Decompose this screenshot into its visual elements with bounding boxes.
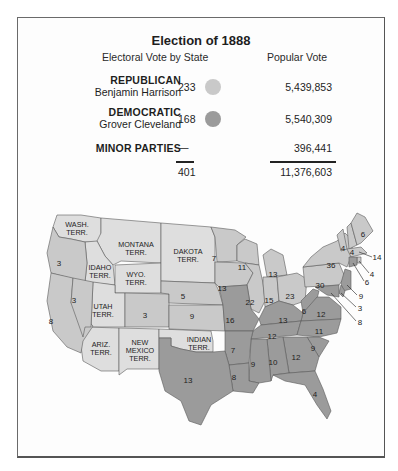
svg-text:3: 3 bbox=[57, 259, 62, 268]
svg-text:8: 8 bbox=[49, 317, 54, 326]
svg-text:23: 23 bbox=[286, 292, 295, 301]
svg-text:14: 14 bbox=[373, 253, 382, 262]
democratic-swatch bbox=[205, 111, 221, 127]
svg-text:TERR.: TERR. bbox=[129, 354, 151, 363]
svg-text:3: 3 bbox=[358, 304, 363, 313]
state-connecticut bbox=[349, 257, 357, 267]
candidate-name: Benjamin Harrison bbox=[95, 86, 181, 98]
party-name: MINOR PARTIES bbox=[96, 142, 181, 154]
svg-text:15: 15 bbox=[265, 296, 274, 305]
electoral-header: Electoral Vote by State bbox=[102, 51, 208, 63]
svg-text:4: 4 bbox=[341, 244, 346, 253]
svg-text:TERR.: TERR. bbox=[177, 255, 199, 264]
svg-text:TERR.: TERR. bbox=[92, 310, 114, 319]
party-name: REPUBLICAN bbox=[110, 74, 181, 86]
svg-text:8: 8 bbox=[358, 318, 363, 327]
svg-text:9: 9 bbox=[311, 344, 316, 353]
svg-text:9: 9 bbox=[190, 312, 195, 321]
republican-swatch bbox=[205, 79, 221, 95]
svg-text:22: 22 bbox=[246, 298, 255, 307]
legend-row-republican: REPUBLICAN Benjamin Harrison 233 5,439,8… bbox=[18, 74, 384, 104]
svg-text:13: 13 bbox=[269, 270, 278, 279]
popular-vote: 5,540,309 bbox=[252, 113, 332, 125]
svg-text:30: 30 bbox=[316, 281, 325, 290]
legend-row-democratic: DEMOCRATIC Grover Cleveland 168 5,540,30… bbox=[18, 106, 384, 136]
svg-text:8: 8 bbox=[232, 373, 237, 382]
svg-text:TERR.: TERR. bbox=[125, 248, 147, 257]
svg-text:7: 7 bbox=[212, 254, 217, 263]
svg-text:6: 6 bbox=[365, 278, 370, 287]
svg-text:TERR.: TERR. bbox=[188, 343, 210, 352]
svg-text:TERR.: TERR. bbox=[125, 278, 147, 287]
legend-row-minor: MINOR PARTIES — 396,441 bbox=[18, 142, 384, 158]
candidate-name: Grover Cleveland bbox=[99, 118, 181, 130]
popular-total-rule bbox=[270, 161, 336, 163]
svg-text:11: 11 bbox=[238, 263, 247, 272]
electoral-vote: 233 bbox=[178, 81, 196, 93]
svg-text:9: 9 bbox=[251, 360, 256, 369]
svg-text:12: 12 bbox=[292, 353, 301, 362]
popular-header: Popular Vote bbox=[267, 51, 327, 63]
svg-text:13: 13 bbox=[218, 284, 227, 293]
svg-text:4: 4 bbox=[313, 390, 318, 399]
page-title: Election of 1888 bbox=[18, 33, 384, 48]
svg-text:11: 11 bbox=[315, 327, 324, 336]
svg-text:36: 36 bbox=[327, 261, 336, 270]
svg-text:16: 16 bbox=[226, 316, 235, 325]
svg-text:TERR.: TERR. bbox=[90, 348, 112, 357]
us-electoral-map: WASH. TERR. MONTANA TERR. DAKOTA TERR. I… bbox=[18, 194, 384, 456]
svg-text:9: 9 bbox=[359, 292, 364, 301]
popular-vote: 396,441 bbox=[252, 142, 332, 154]
party-name: DEMOCRATIC bbox=[109, 106, 181, 118]
svg-text:3: 3 bbox=[72, 296, 77, 305]
state-florida bbox=[273, 371, 331, 419]
svg-text:4: 4 bbox=[370, 270, 375, 279]
svg-text:12: 12 bbox=[317, 310, 326, 319]
svg-text:6: 6 bbox=[361, 230, 366, 239]
svg-text:TERR.: TERR. bbox=[89, 271, 111, 280]
state-wisconsin bbox=[237, 239, 259, 265]
svg-text:3: 3 bbox=[143, 311, 148, 320]
election-map-card: Election of 1888 Electoral Vote by State… bbox=[17, 17, 385, 458]
state-rhode-island bbox=[357, 257, 361, 263]
state-colorado bbox=[125, 293, 169, 327]
svg-text:TERR.: TERR. bbox=[66, 228, 88, 237]
state-arkansas bbox=[225, 331, 253, 365]
svg-text:12: 12 bbox=[268, 332, 277, 341]
svg-text:10: 10 bbox=[269, 358, 278, 367]
svg-text:13: 13 bbox=[279, 316, 288, 325]
svg-text:7: 7 bbox=[231, 346, 236, 355]
svg-text:4: 4 bbox=[350, 248, 355, 257]
svg-text:6: 6 bbox=[302, 307, 307, 316]
state-nebraska bbox=[161, 281, 223, 305]
popular-total: 11,376,603 bbox=[252, 166, 332, 178]
svg-text:13: 13 bbox=[184, 376, 193, 385]
electoral-vote: 168 bbox=[178, 113, 196, 125]
state-kansas bbox=[169, 305, 225, 331]
svg-text:5: 5 bbox=[181, 292, 186, 301]
electoral-total-rule bbox=[176, 161, 194, 163]
electoral-total: 401 bbox=[178, 166, 196, 178]
popular-vote: 5,439,853 bbox=[252, 81, 332, 93]
electoral-vote: — bbox=[178, 141, 189, 153]
